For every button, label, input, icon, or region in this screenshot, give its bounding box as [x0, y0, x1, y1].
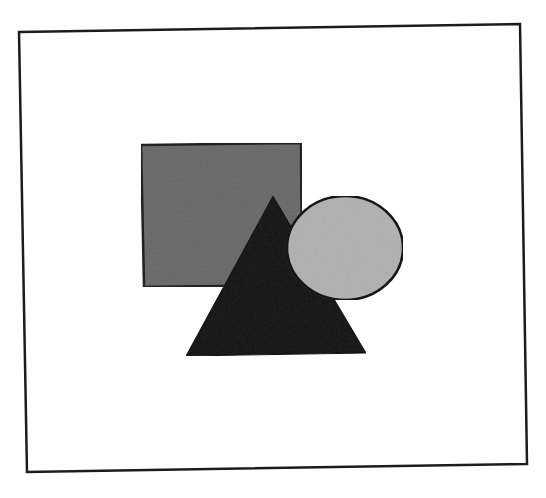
circle-shape: [287, 196, 403, 300]
diagram-canvas: [0, 0, 546, 498]
